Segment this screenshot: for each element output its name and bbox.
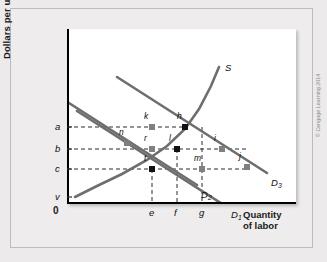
y-axis-title: Dollars per unit [1,0,12,59]
data-point-label-m: m [194,153,201,163]
data-point-k[interactable] [149,124,155,130]
data-point-t[interactable] [149,166,155,172]
x-axis-title: Quantity of labor [243,209,282,231]
data-point-l[interactable] [174,146,180,152]
curve-label-S: S [225,62,231,73]
curve-label-D3: D3 [271,177,282,189]
curve-D3 [117,77,267,173]
copyright-notice: © Cengage Learning 2014 [315,74,321,137]
data-point-i[interactable] [219,146,225,152]
x-tick-label-f: f [174,207,177,218]
origin-label: 0 [53,205,59,216]
data-point-label-t: t [144,153,146,163]
data-point-label-l: l [169,133,171,143]
data-point-label-n: n [119,127,124,137]
curve-S [75,67,219,197]
data-point-label-r: r [144,133,147,143]
y-tick-label-b: b [55,143,60,154]
data-point-j[interactable] [244,164,250,170]
y-tick-label-v: v [55,191,60,202]
data-point-label-k: k [144,111,148,121]
data-point-label-i: i [214,133,216,143]
figure-frame: Dollars per unit 0 Quantity of labor © C… [10,8,313,248]
y-tick-label-a: a [55,121,60,132]
curve-label-D1: D1 [231,209,242,221]
chart-plot-area: nkhrlitmjSD3D1D2 [67,29,296,204]
data-point-n[interactable] [124,140,130,146]
data-point-label-j: j [239,151,241,161]
y-tick-label-c: c [55,163,60,174]
x-axis-title-line1: Quantity [243,209,282,220]
x-tick-label-e: e [149,207,154,218]
data-point-h[interactable] [182,124,188,130]
x-axis-title-line2: of labor [243,220,278,231]
data-point-label-h: h [177,111,182,121]
x-tick-label-g: g [199,207,204,218]
data-point-r[interactable] [149,146,155,152]
curve-label-D2: D2 [201,189,212,201]
data-point-m[interactable] [199,166,205,172]
